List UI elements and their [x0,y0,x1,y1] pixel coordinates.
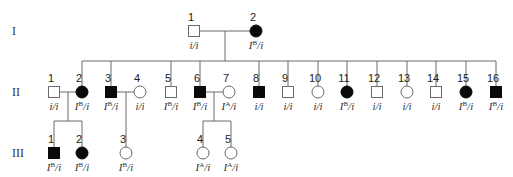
genotype-label: IB/i [339,100,354,112]
unaffected-female-symbol [225,147,237,159]
individual-number: 9 [282,72,288,84]
individual-number: 3 [120,133,126,145]
genotype-label: i/i [372,100,381,112]
individual-II-10: 10i/i [309,72,324,112]
individual-II-6: 6IB/i [192,72,207,112]
individual-II-9: 9i/i [282,72,294,112]
individual-II-12: 12i/i [368,72,383,112]
individual-number: 12 [368,72,380,84]
individual-number: 15 [457,72,469,84]
genotype-label: IB/i [488,100,503,112]
unaffected-male-symbol [283,87,294,98]
individual-II-16: 16IB/i [487,72,503,112]
affected-female-symbol [76,86,88,98]
individual-III-1: 1IB/i [46,133,61,173]
genotype-label: IB/i [458,100,473,112]
individual-number: 14 [427,72,439,84]
individual-number: 1 [48,72,54,84]
individual-II-14: 14i/i [427,72,442,112]
affected-male-symbol [491,87,502,98]
affected-male-symbol [254,87,265,98]
genotype-label: IA/i [221,100,237,112]
individuals: 1i/i2IB/i1i/i2IB/i3IB/i4i/i5IB/i6IB/i7IA… [46,11,503,173]
affected-male-symbol [106,87,117,98]
generation-labels: IIIIII [12,24,24,160]
genotype-label: i/i [189,39,198,51]
genotype-label: IB/i [192,100,207,112]
unaffected-female-symbol [312,86,324,98]
affected-male-symbol [49,148,60,159]
individual-II-13: 13i/i [398,72,413,112]
genotype-label: IB/i [163,100,178,112]
unaffected-female-symbol [134,86,146,98]
individual-II-11: 11IB/i [338,72,354,112]
individual-number: 1 [48,133,54,145]
individual-II-4: 4i/i [134,72,146,112]
genotype-label: IB/i [103,100,118,112]
genotype-label: i/i [313,100,322,112]
genotype-label: i/i [431,100,440,112]
individual-II-3: 3IB/i [103,72,118,112]
unaffected-male-symbol [372,87,383,98]
genotype-label: IB/i [248,39,263,51]
individual-number: 4 [197,133,203,145]
genotype-label: i/i [254,100,263,112]
individual-II-1: 1i/i [48,72,60,112]
individual-II-15: 15IB/i [457,72,473,112]
genotype-label: IB/i [46,161,61,173]
genotype-label: i/i [135,100,144,112]
individual-number: 2 [250,11,256,23]
individual-I-2: 2IB/i [248,11,263,51]
affected-female-symbol [250,25,262,37]
affected-male-symbol [195,87,206,98]
individual-number: 4 [134,72,140,84]
genotype-label: i/i [402,100,411,112]
genotype-label: IB/i [118,161,133,173]
unaffected-female-symbol [197,147,209,159]
individual-number: 7 [223,72,229,84]
individual-III-3: 3IB/i [118,133,133,173]
affected-female-symbol [460,86,472,98]
generation-label: I [12,24,16,38]
individual-number: 13 [398,72,410,84]
genotype-label: IB/i [74,161,89,173]
generation-label: III [12,146,24,160]
individual-number: 10 [309,72,321,84]
individual-number: 11 [338,72,349,84]
individual-number: 2 [76,133,82,145]
individual-II-8: 8i/i [253,72,265,112]
individual-III-4: 4IA/i [195,133,211,173]
individual-number: 1 [188,11,194,23]
individual-number: 5 [165,72,171,84]
unaffected-male-symbol [49,87,60,98]
unaffected-male-symbol [189,26,200,37]
genotype-label: i/i [49,100,58,112]
individual-III-5: 5IA/i [223,133,239,173]
individual-number: 2 [76,72,82,84]
individual-number: 16 [487,72,499,84]
individual-II-5: 5IB/i [163,72,178,112]
genotype-label: IA/i [195,161,211,173]
individual-II-7: 7IA/i [221,72,237,112]
generation-label: II [12,85,20,99]
individual-number: 3 [105,72,111,84]
affected-female-symbol [76,147,88,159]
relationship-lines [54,31,496,148]
genotype-label: i/i [283,100,292,112]
unaffected-male-symbol [431,87,442,98]
individual-III-2: 2IB/i [74,133,89,173]
individual-number: 8 [253,72,259,84]
individual-number: 6 [194,72,200,84]
individual-II-2: 2IB/i [74,72,89,112]
unaffected-male-symbol [166,87,177,98]
unaffected-female-symbol [120,147,132,159]
pedigree-diagram: IIIIII 1i/i2IB/i1i/i2IB/i3IB/i4i/i5IB/i6… [0,0,513,177]
individual-number: 5 [225,133,231,145]
individual-I-1: 1i/i [188,11,200,51]
affected-female-symbol [341,86,353,98]
genotype-label: IA/i [223,161,239,173]
genotype-label: IB/i [74,100,89,112]
unaffected-female-symbol [223,86,235,98]
unaffected-female-symbol [401,86,413,98]
